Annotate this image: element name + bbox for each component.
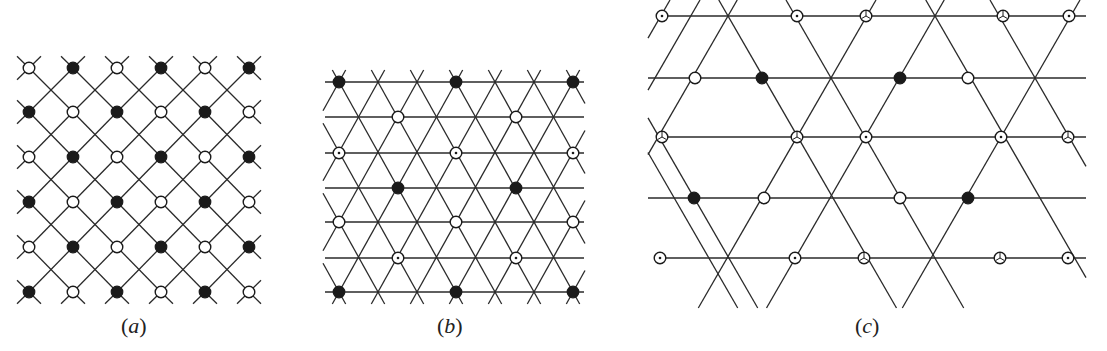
open-site-icon — [894, 192, 906, 204]
lattice-edge — [648, 153, 738, 308]
dotted-site-icon — [1063, 10, 1075, 22]
y-glyph-site-icon — [858, 252, 870, 264]
lattice-edge — [698, 0, 876, 308]
filled-site-icon — [510, 182, 522, 194]
dotted-site-icon — [654, 252, 666, 264]
dotted-site-icon — [860, 131, 872, 143]
filled-site-icon — [567, 76, 579, 88]
filled-site-icon — [333, 76, 345, 88]
open-site-icon — [243, 106, 255, 118]
filled-site-icon — [243, 62, 255, 74]
open-site-icon — [199, 62, 211, 74]
dotted-site-icon — [1062, 252, 1074, 264]
filled-site-icon — [67, 241, 79, 253]
open-site-icon — [510, 111, 522, 123]
filled-site-icon — [23, 286, 35, 298]
y-glyph-site-icon — [994, 252, 1006, 264]
dotted-site-icon — [392, 252, 404, 264]
open-site-icon — [567, 216, 579, 228]
caption-a: (a) — [121, 313, 147, 339]
open-site-icon — [758, 192, 770, 204]
open-site-icon — [155, 106, 167, 118]
filled-site-icon — [23, 196, 35, 208]
caption-b-letter: b — [444, 313, 455, 338]
y-glyph-site-icon — [656, 131, 668, 143]
filled-site-icon — [111, 196, 123, 208]
open-site-icon — [199, 151, 211, 163]
caption-c: (c) — [855, 313, 879, 339]
filled-site-icon — [450, 286, 462, 298]
open-site-icon — [392, 111, 404, 123]
lattice-edge — [323, 193, 385, 304]
panel-a-square-lattice — [17, 56, 261, 303]
dotted-site-icon — [995, 131, 1007, 143]
filled-site-icon — [111, 286, 123, 298]
filled-site-icon — [450, 76, 462, 88]
filled-site-icon — [199, 106, 211, 118]
open-site-icon — [67, 286, 79, 298]
open-site-icon — [23, 62, 35, 74]
open-site-icon — [23, 241, 35, 253]
filled-site-icon — [962, 192, 974, 204]
filled-site-icon — [155, 241, 167, 253]
dotted-site-icon — [789, 252, 801, 264]
dotted-site-icon — [333, 147, 345, 159]
lattice-edge — [323, 70, 385, 181]
lattice-edge — [323, 263, 346, 304]
y-glyph-site-icon — [1062, 131, 1074, 143]
open-site-icon — [243, 196, 255, 208]
filled-site-icon — [894, 72, 906, 84]
open-site-icon — [111, 241, 123, 253]
filled-site-icon — [67, 151, 79, 163]
open-site-icon — [67, 106, 79, 118]
filled-site-icon — [155, 151, 167, 163]
caption-c-letter: c — [862, 313, 872, 338]
dotted-site-icon — [656, 10, 668, 22]
open-site-icon — [333, 216, 345, 228]
caption-a-letter: a — [128, 313, 139, 338]
filled-site-icon — [243, 151, 255, 163]
open-site-icon — [243, 286, 255, 298]
filled-site-icon — [155, 62, 167, 74]
dotted-site-icon — [567, 147, 579, 159]
lattice-edge — [902, 0, 1080, 308]
filled-site-icon — [392, 182, 404, 194]
lattice-edge — [648, 118, 758, 308]
y-glyph-site-icon — [791, 131, 803, 143]
open-site-icon — [155, 286, 167, 298]
open-site-icon — [199, 241, 211, 253]
panel-b-triangular-lattice — [323, 70, 585, 304]
open-site-icon — [67, 196, 79, 208]
filled-site-icon — [243, 241, 255, 253]
filled-site-icon — [688, 192, 700, 204]
panel-c-kagome-lattice — [648, 0, 1086, 308]
filled-site-icon — [333, 286, 345, 298]
open-site-icon — [689, 72, 701, 84]
open-site-icon — [23, 151, 35, 163]
filled-site-icon — [199, 286, 211, 298]
lattice-edge — [719, 0, 897, 308]
filled-site-icon — [199, 196, 211, 208]
open-site-icon — [155, 196, 167, 208]
open-site-icon — [962, 72, 974, 84]
filled-site-icon — [756, 72, 768, 84]
filled-site-icon — [67, 62, 79, 74]
open-site-icon — [111, 62, 123, 74]
y-glyph-site-icon — [997, 10, 1009, 22]
dotted-site-icon — [791, 10, 803, 22]
open-site-icon — [111, 151, 123, 163]
lattice-edge — [323, 70, 346, 111]
lattice-figure — [0, 0, 1107, 351]
y-glyph-site-icon — [860, 10, 872, 22]
filled-site-icon — [567, 286, 579, 298]
caption-b: (b) — [437, 313, 463, 339]
lattice-edge — [786, 0, 964, 308]
dotted-site-icon — [510, 252, 522, 264]
dotted-site-icon — [450, 147, 462, 159]
open-site-icon — [450, 216, 462, 228]
filled-site-icon — [23, 106, 35, 118]
filled-site-icon — [111, 106, 123, 118]
